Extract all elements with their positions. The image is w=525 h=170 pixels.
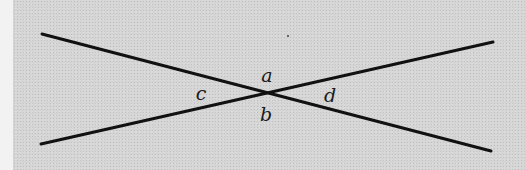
diagram-canvas: a b c d: [0, 0, 525, 170]
angle-label-d: d: [324, 86, 336, 105]
speck: [287, 35, 289, 37]
line-ascending: [41, 42, 493, 144]
angle-label-b: b: [260, 105, 272, 124]
angle-label-c: c: [196, 84, 207, 103]
angle-label-a: a: [261, 66, 272, 85]
